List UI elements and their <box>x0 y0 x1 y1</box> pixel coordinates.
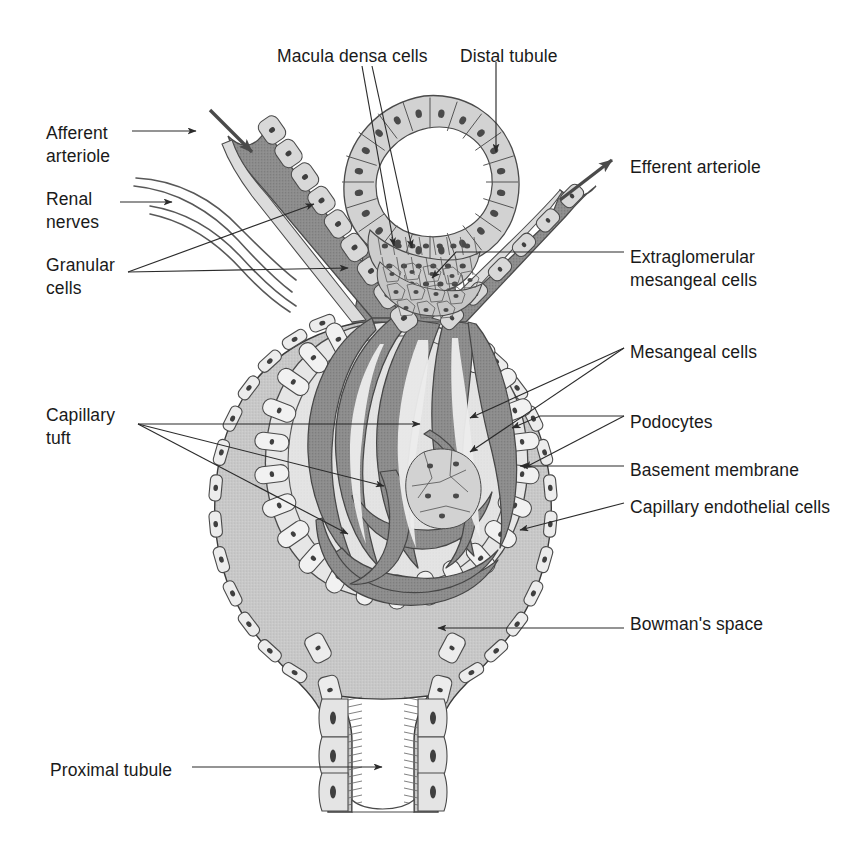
cell-nucleus <box>403 306 408 310</box>
cell-nucleus <box>460 264 466 269</box>
renal-corpuscle-figure: Afferent arteriole Renal nerves Granular… <box>0 0 865 844</box>
label-distal-tubule: Distal tubule <box>460 45 558 68</box>
label-efferent-arteriole: Efferent arteriole <box>630 156 761 179</box>
cell-nucleus <box>467 278 472 282</box>
mesangeal-cell-cluster <box>406 448 481 529</box>
brush-border-microvillus <box>348 718 362 721</box>
label-renal-nerves: Renal nerves <box>46 188 99 235</box>
cell-nucleus <box>423 308 428 312</box>
brush-border-microvillus <box>348 711 362 714</box>
cell-nucleus <box>452 282 458 287</box>
cell-nucleus <box>449 274 454 278</box>
label-granular-cells: Granular cells <box>46 254 115 301</box>
label-capillary-tuft: Capillary tuft <box>46 404 115 451</box>
cell-nucleus <box>464 244 470 249</box>
label-bowmans-space: Bowman's space <box>630 613 763 636</box>
label-podocytes: Podocytes <box>630 411 713 434</box>
cell-nucleus <box>413 290 418 294</box>
cell-nucleus <box>433 292 438 296</box>
proximal-tubule-neck <box>319 697 447 812</box>
cell-nucleus <box>330 712 336 725</box>
cell-nucleus <box>330 786 336 799</box>
cell-nucleus <box>430 264 436 269</box>
cell-nucleus <box>430 750 436 763</box>
brush-border-microvillus <box>348 704 362 707</box>
cell-nucleus <box>382 244 388 249</box>
cell-nucleus <box>393 290 398 294</box>
renal-corpuscle-diagram <box>0 0 865 844</box>
brush-border-microvillus <box>404 704 418 707</box>
label-proximal-tubule: Proximal tubule <box>50 759 172 782</box>
brush-border-microvillus <box>404 711 418 714</box>
label-basement-membrane: Basement membrane <box>630 459 799 482</box>
cell-nucleus <box>430 786 436 799</box>
label-mesangeal-cells: Mesangeal cells <box>630 341 757 364</box>
label-macula-densa-cells: Macula densa cells <box>277 45 428 68</box>
cell-nucleus <box>437 244 443 249</box>
cell-nucleus <box>396 244 402 249</box>
cell-nucleus <box>389 272 394 276</box>
cell-nucleus <box>330 750 336 763</box>
cell-nucleus <box>453 294 458 298</box>
cell-nucleus <box>443 308 448 312</box>
cell-nucleus <box>430 712 436 725</box>
cell-nucleus <box>450 244 456 249</box>
label-capillary-endothelial-cells: Capillary endothelial cells <box>630 496 830 519</box>
cell-nucleus <box>409 270 414 274</box>
label-afferent-arteriole: Afferent arteriole <box>46 122 110 169</box>
brush-border-microvillus <box>404 718 418 721</box>
label-extraglomerular-mesangeal-cells: Extraglomerular mesangeal cells <box>630 246 757 293</box>
cell-nucleus <box>423 244 429 249</box>
